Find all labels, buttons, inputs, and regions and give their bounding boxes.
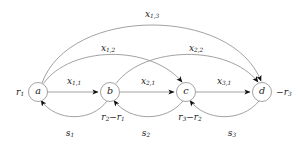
arc-label-a-d: x1,3 (145, 9, 159, 20)
arc-b-d (116, 54, 258, 83)
arc-a-c (44, 54, 183, 83)
arc-a-d (42, 25, 261, 83)
node-label-c: c (183, 86, 188, 96)
node-balance-b: r2−r1 (101, 113, 124, 123)
edge-label-c-d-subscript: 3,1 (222, 80, 231, 86)
diagram-canvas (0, 0, 303, 145)
sink-demand-label: −r3 (276, 87, 292, 98)
arc-label-a-c-subscript: 1,2 (106, 47, 115, 53)
network-flow-diagram: a b c d r1 −r3 x1,1 x2,1 x3,1 x1,2 x2,2 … (0, 0, 303, 145)
arc-label-b-d: x2,2 (189, 43, 203, 54)
arc-label-b-a: s1 (66, 128, 74, 139)
edge-label-c-d: x3,1 (217, 76, 231, 87)
sink-demand-sign: − (276, 86, 284, 97)
arc-label-b-d-subscript: 2,2 (194, 47, 203, 53)
edge-label-a-b-subscript: 1,1 (72, 80, 81, 86)
arc-label-c-b: s2 (142, 128, 150, 139)
arc-b-a (41, 101, 107, 117)
edge-label-b-c-subscript: 2,1 (146, 80, 155, 86)
arc-label-a-d-subscript: 1,3 (150, 13, 159, 19)
arc-label-d-c-subscript: 3 (233, 132, 237, 138)
node-label-a: a (35, 86, 41, 96)
node-label-b: b (107, 86, 113, 96)
arc-label-d-c: s3 (228, 128, 236, 139)
sink-demand-subscript: 3 (288, 91, 292, 97)
edge-label-a-b: x1,1 (67, 76, 81, 87)
node-balance-c: r3−r2 (178, 113, 201, 123)
edge-label-b-c: x2,1 (141, 76, 155, 87)
forward-upper-arcs (42, 25, 261, 84)
source-supply-subscript: 1 (20, 91, 24, 97)
node-balance-c-subtrahend-sub: 2 (198, 116, 202, 122)
return-lower-arcs (41, 101, 259, 117)
node-balance-b-subtrahend-sub: 1 (121, 116, 125, 122)
node-label-d: d (259, 86, 265, 96)
arc-label-a-c: x1,2 (101, 43, 115, 54)
arc-label-c-b-subscript: 2 (147, 132, 151, 138)
source-supply-label: r1 (16, 87, 24, 98)
arc-label-b-a-subscript: 1 (71, 132, 75, 138)
